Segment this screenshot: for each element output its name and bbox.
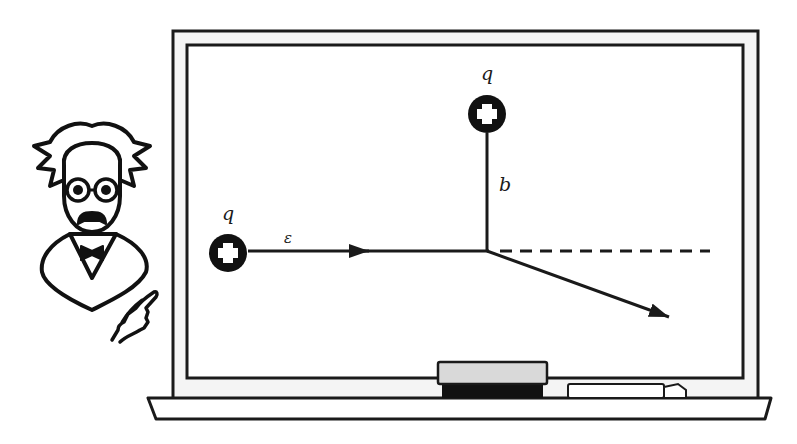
pointing-hand-icon [112, 292, 157, 342]
glasses-arm-left [64, 188, 67, 189]
chalk-tray [148, 398, 771, 419]
chalk[interactable] [568, 384, 686, 398]
incoming-charge-label: q [222, 204, 234, 223]
right-eye [101, 185, 111, 195]
chalk-body [568, 384, 664, 398]
eraser[interactable] [438, 362, 547, 398]
board-writing-surface [187, 45, 743, 378]
glasses-arm-right [117, 188, 120, 189]
left-eye [73, 185, 83, 195]
target-charge-label: q [481, 64, 493, 83]
professor-character [34, 124, 157, 342]
energy-label: ε [284, 231, 292, 246]
incoming-charge [209, 234, 247, 272]
eraser-top [438, 362, 547, 384]
target-charge [468, 95, 506, 133]
pointing-hand-finger [122, 300, 142, 322]
impact-parameter-label: b [499, 175, 511, 194]
diagram-canvas [0, 0, 797, 444]
